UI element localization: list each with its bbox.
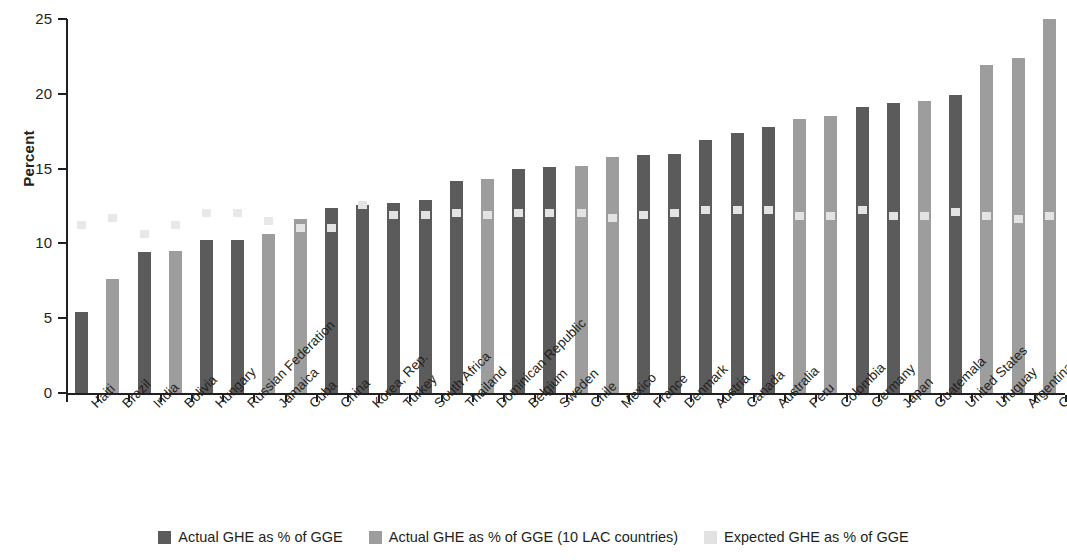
expected-marker-korea-rep (358, 201, 367, 209)
legend-swatch-icon (369, 531, 382, 544)
expected-marker-australia (764, 206, 773, 214)
bar-mexico (606, 157, 619, 393)
x-label-canada: Canada (744, 401, 754, 411)
legend-item-3[interactable]: Expected GHE as % of GGE (704, 529, 909, 545)
expected-marker-denmark (670, 209, 679, 217)
bar-bolivia (169, 251, 182, 393)
x-label-peru: Peru (807, 401, 817, 411)
x-label-mexico: Mexico (619, 401, 629, 411)
x-label-thailand: Thailand (463, 401, 473, 411)
expected-marker-france (639, 211, 648, 219)
expected-marker-guatemala (920, 212, 929, 220)
y-tick-label: 0 (8, 385, 52, 400)
y-tick-label: 20 (8, 86, 52, 101)
bar-austria (699, 140, 712, 393)
x-label-united-states: United States (963, 401, 973, 411)
expected-marker-thailand (452, 209, 461, 217)
x-label-guatemala: Guatemala (932, 401, 942, 411)
expected-marker-colombia (826, 212, 835, 220)
x-label-turkey: Turkey (401, 401, 411, 411)
bar-united-states (949, 95, 962, 393)
bar-india (138, 252, 151, 393)
x-label-haiti: Haiti (89, 401, 99, 411)
x-label-bolivia: Bolivia (182, 401, 192, 411)
expected-marker-turkey (389, 211, 398, 219)
legend-label: Actual GHE as % of GGE (10 LAC countries… (389, 529, 678, 545)
expected-marker-hungary (202, 209, 211, 217)
bar-korea-rep (356, 205, 369, 393)
bar-canada (731, 133, 744, 393)
expected-marker-japan (889, 212, 898, 220)
x-label-australia: Australia (775, 401, 785, 411)
expected-marker-uruguay (982, 212, 991, 220)
legend-swatch-icon (704, 531, 717, 544)
expected-marker-chile (577, 209, 586, 217)
expected-marker-germany (858, 206, 867, 214)
bar-belgium (512, 169, 525, 393)
bar-turkey (387, 203, 400, 393)
x-label-japan: Japan (900, 401, 910, 411)
y-tick-label: 15 (8, 161, 52, 176)
bar-costa-rica (1043, 19, 1056, 393)
expected-marker-dominican-republic (483, 211, 492, 219)
x-label-brazil: Brazil (120, 401, 130, 411)
legend-label: Expected GHE as % of GGE (724, 529, 909, 545)
bar-hungary (200, 240, 213, 393)
expected-marker-china (327, 224, 336, 232)
x-label-cuba: Cuba (307, 401, 317, 411)
x-label-russian-federation: Russian Federation (245, 401, 255, 411)
bar-brazil (106, 279, 119, 393)
expected-marker-united-states (951, 208, 960, 216)
expected-marker-canada (733, 206, 742, 214)
expected-marker-bolivia (171, 221, 180, 229)
x-label-uruguay: Uruguay (994, 401, 1004, 411)
x-label-austria: Austria (713, 401, 723, 411)
x-label-germany: Germany (869, 401, 879, 411)
bar-chart: Percent 0510152025 HaitiBrazilIndiaBoliv… (0, 0, 1067, 560)
expected-marker-russian-federation (233, 209, 242, 217)
bar-australia (762, 127, 775, 393)
expected-marker-austria (701, 206, 710, 214)
chart-legend: Actual GHE as % of GGEActual GHE as % of… (0, 529, 1067, 545)
expected-marker-jamaica (264, 217, 273, 225)
x-label-colombia: Colombia (838, 401, 848, 411)
y-tick-label: 10 (8, 235, 52, 250)
bar-france (637, 155, 650, 393)
expected-marker-brazil (108, 214, 117, 222)
x-label-dominican-republic: Dominican Republic (494, 401, 504, 411)
x-label-costa-rica: Costa Rica (1056, 401, 1066, 411)
legend-label: Actual GHE as % of GGE (178, 529, 342, 545)
expected-marker-peru (795, 212, 804, 220)
bar-germany (856, 107, 869, 393)
y-tick-label: 25 (8, 11, 52, 26)
expected-marker-mexico (608, 214, 617, 222)
legend-swatch-icon (158, 531, 171, 544)
expected-marker-belgium (514, 209, 523, 217)
x-label-hungary: Hungary (213, 401, 223, 411)
bar-uruguay (980, 65, 993, 393)
x-label-belgium: Belgium (526, 401, 536, 411)
x-axis-labels: HaitiBrazilIndiaBoliviaHungaryRussian Fe… (0, 401, 1067, 521)
legend-item-2[interactable]: Actual GHE as % of GGE (10 LAC countries… (369, 529, 678, 545)
bar-peru (793, 119, 806, 393)
x-label-france: France (651, 401, 661, 411)
bar-colombia (824, 116, 837, 393)
x-label-south-africa: South Africa (432, 401, 442, 411)
x-label-india: India (151, 401, 161, 411)
x-label-china: China (338, 401, 348, 411)
y-tick-label: 5 (8, 310, 52, 325)
x-label-jamaica: Jamaica (276, 401, 286, 411)
x-label-sweden: Sweden (557, 401, 567, 411)
bar-haiti (75, 312, 88, 393)
legend-item-1[interactable]: Actual GHE as % of GGE (158, 529, 342, 545)
bar-guatemala (918, 101, 931, 393)
x-label-denmark: Denmark (682, 401, 692, 411)
x-label-chile: Chile (588, 401, 598, 411)
expected-marker-south-africa (421, 211, 430, 219)
expected-marker-haiti (77, 221, 86, 229)
bar-china (325, 208, 338, 394)
expected-marker-sweden (545, 209, 554, 217)
y-axis-title: Percent (20, 109, 37, 209)
x-label-korea-rep: Korea, Rep. (370, 401, 380, 411)
bar-japan (887, 103, 900, 393)
